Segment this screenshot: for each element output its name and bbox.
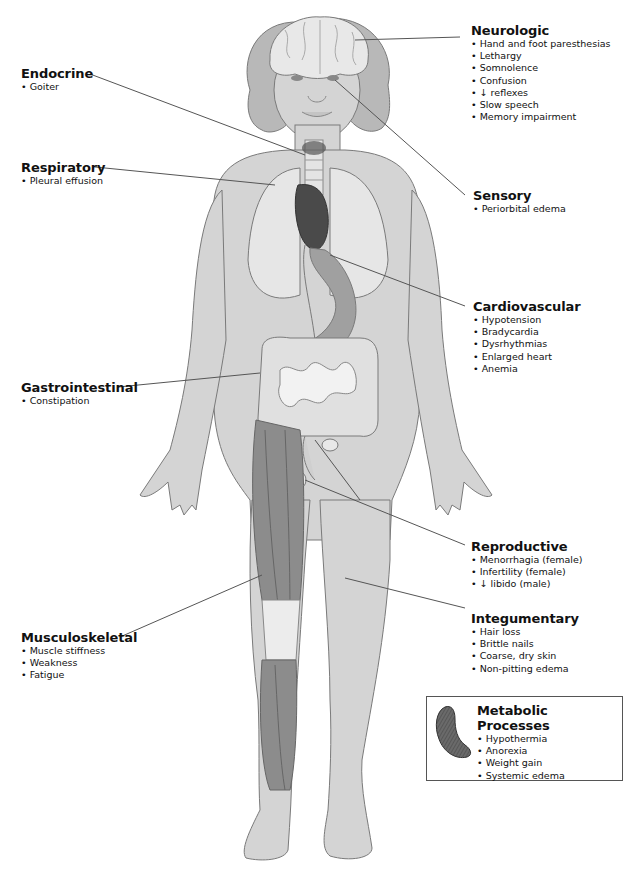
list-item: Periorbital edema — [473, 203, 566, 215]
respiratory-title: Respiratory — [21, 160, 105, 175]
reproductive-label: Reproductive Menorrhagia (female) Infert… — [471, 539, 583, 591]
cardiovascular-label: Cardiovascular Hypotension Bradycardia D… — [473, 299, 581, 375]
list-item: Menorrhagia (female) — [471, 554, 583, 566]
neurologic-list: Hand and foot paresthesias Lethargy Somn… — [471, 38, 611, 123]
list-item: Brittle nails — [471, 638, 579, 650]
neurologic-title: Neurologic — [471, 23, 611, 38]
gastrointestinal-label: Gastrointestinal Constipation — [21, 380, 138, 407]
musculoskeletal-title: Musculoskeletal — [21, 630, 137, 645]
list-item: Lethargy — [471, 50, 611, 62]
metabolic-processes-box: Metabolic Processes Hypothermia Anorexia… — [426, 696, 623, 781]
right-leg — [320, 500, 390, 859]
reproductive-title: Reproductive — [471, 539, 583, 554]
list-item: ↓ libido (male) — [471, 578, 583, 590]
sensory-title: Sensory — [473, 188, 566, 203]
list-item: Dysrhythmias — [473, 338, 581, 350]
list-item: Pleural effusion — [21, 175, 105, 187]
metabolic-title: Metabolic Processes — [477, 703, 622, 733]
list-item: Weakness — [21, 657, 137, 669]
left-eye — [291, 75, 303, 81]
cardiovascular-title: Cardiovascular — [473, 299, 581, 314]
integumentary-title: Integumentary — [471, 611, 579, 626]
list-item: Constipation — [21, 395, 138, 407]
metabolic-label: Metabolic Processes Hypothermia Anorexia… — [477, 703, 622, 782]
gastrointestinal-title: Gastrointestinal — [21, 380, 138, 395]
integumentary-label: Integumentary Hair loss Brittle nails Co… — [471, 611, 579, 675]
metabolic-cell-icon — [433, 705, 473, 761]
sensory-label: Sensory Periorbital edema — [473, 188, 566, 215]
list-item: Infertility (female) — [471, 566, 583, 578]
left-arm — [140, 190, 226, 515]
list-item: Anemia — [473, 363, 581, 375]
thyroid — [302, 141, 326, 155]
list-item: Hypotension — [473, 314, 581, 326]
endocrine-label: Endocrine Goiter — [21, 66, 93, 93]
list-item: Hypothermia — [477, 733, 622, 745]
leader-musculoskeletal — [120, 575, 262, 637]
list-item: Systemic edema — [477, 770, 622, 782]
endocrine-title: Endocrine — [21, 66, 93, 81]
knee — [262, 600, 300, 660]
neurologic-label: Neurologic Hand and foot paresthesias Le… — [471, 23, 611, 123]
list-item: Slow speech — [471, 99, 611, 111]
list-item: Fatigue — [21, 669, 137, 681]
ovary — [322, 439, 338, 451]
list-item: Somnolence — [471, 62, 611, 74]
list-item: Anorexia — [477, 745, 622, 757]
hypothyroidism-body-diagram: Neurologic Hand and foot paresthesias Le… — [0, 0, 631, 869]
list-item: Muscle stiffness — [21, 645, 137, 657]
musculoskeletal-label: Musculoskeletal Muscle stiffness Weaknes… — [21, 630, 137, 682]
list-item: Hand and foot paresthesias — [471, 38, 611, 50]
list-item: Non-pitting edema — [471, 663, 579, 675]
right-eye — [327, 75, 339, 81]
respiratory-label: Respiratory Pleural effusion — [21, 160, 105, 187]
list-item: Weight gain — [477, 757, 622, 769]
list-item: Coarse, dry skin — [471, 650, 579, 662]
list-item: Enlarged heart — [473, 351, 581, 363]
list-item: Memory impairment — [471, 111, 611, 123]
list-item: ↓ reflexes — [471, 87, 611, 99]
list-item: Goiter — [21, 81, 93, 93]
list-item: Bradycardia — [473, 326, 581, 338]
list-item: Hair loss — [471, 626, 579, 638]
list-item: Confusion — [471, 75, 611, 87]
